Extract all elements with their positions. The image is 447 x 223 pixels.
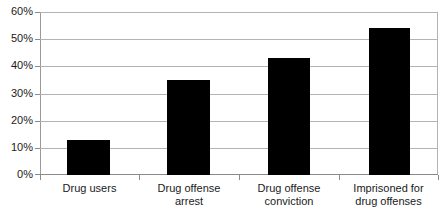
x-tick-mark-3 [339,175,340,180]
y-axis-tick-label-40: 40% [0,60,33,71]
x-axis-label-line-1: Drug users [63,182,117,194]
x-axis-label-imprisoned-drug-offenses: Imprisoned fordrug offenses [339,182,438,208]
bar-chart: 60% 50% 40% 30% 20% 10% 0% Drug users Dr… [0,0,447,223]
gridline-60 [40,12,438,13]
y-axis-tick-label-20: 20% [0,115,33,126]
y-axis-tick-label-0: 0% [0,169,33,180]
x-axis-label-drug-offense-arrest: Drug offensearrest [139,182,239,208]
y-axis-tick-label-50: 50% [0,33,33,44]
y-tick-mark-30 [35,94,40,95]
y-tick-mark-60 [35,12,40,13]
bar-drug-users [67,140,110,175]
x-axis-label-drug-offense-conviction: Drug offenseconviction [239,182,339,208]
x-axis-label-line-1: Drug offense [258,182,321,194]
x-axis-label-line-2: arrest [175,195,203,207]
bar-drug-offense-arrest [167,80,210,175]
plot-area [40,12,438,175]
x-tick-mark-2 [239,175,240,180]
x-tick-mark-0 [40,175,41,180]
x-axis-label-line-2: drug offenses [355,195,421,207]
y-tick-mark-20 [35,121,40,122]
x-tick-mark-1 [139,175,140,180]
y-tick-mark-50 [35,39,40,40]
bar-imprisoned-drug-offenses [369,28,410,175]
y-axis-tick-label-60: 60% [0,6,33,17]
x-tick-mark-4 [438,175,439,180]
y-axis-tick-label-30: 30% [0,88,33,99]
x-axis-label-line-1: Imprisoned for [353,182,423,194]
x-axis-label-line-1: Drug offense [158,182,221,194]
bar-drug-offense-conviction [268,58,310,175]
x-axis-label-line-2: conviction [265,195,314,207]
x-axis-label-drug-users: Drug users [40,182,139,195]
y-axis-tick-label-10: 10% [0,142,33,153]
y-tick-mark-40 [35,66,40,67]
y-tick-mark-10 [35,148,40,149]
